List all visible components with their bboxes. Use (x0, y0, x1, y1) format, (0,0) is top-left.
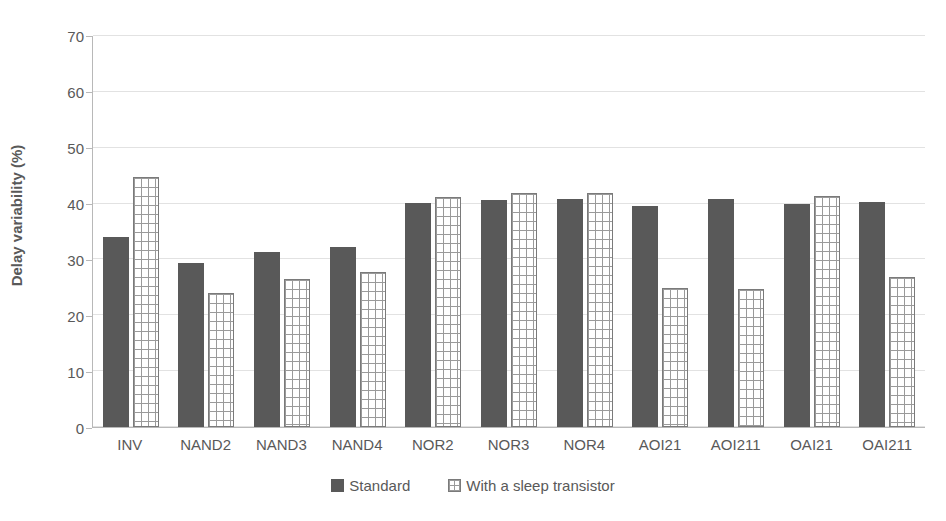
bar-group (471, 36, 547, 427)
plot-area (92, 36, 925, 428)
bar[interactable] (632, 206, 658, 427)
bar-chart: Delay variability (%) 010203040506070 IN… (0, 0, 946, 521)
y-axis-tick-label: 70 (40, 29, 84, 44)
bar-group (547, 36, 623, 427)
bar[interactable] (435, 197, 461, 427)
bar-group (93, 36, 169, 427)
x-axis-tick-label: NOR2 (395, 432, 471, 458)
bar[interactable] (814, 196, 840, 427)
x-axis-tick-label: NOR4 (546, 432, 622, 458)
x-axis-tick-label: AOI21 (622, 432, 698, 458)
bar[interactable] (889, 277, 915, 427)
bar[interactable] (708, 199, 734, 427)
legend-label: Standard (349, 477, 410, 494)
x-axis-tick-label: INV (92, 432, 168, 458)
y-axis-title-text: Delay variability (%) (9, 144, 26, 286)
bar[interactable] (133, 177, 159, 427)
bar-group (622, 36, 698, 427)
bar[interactable] (208, 293, 234, 427)
x-axis-tick-label: OAI21 (774, 432, 850, 458)
x-axis-tick-label: NOR3 (471, 432, 547, 458)
y-axis-tick-labels: 010203040506070 (36, 36, 84, 428)
bar-group (698, 36, 774, 427)
bar-group (169, 36, 245, 427)
bar[interactable] (557, 199, 583, 427)
bar[interactable] (784, 204, 810, 427)
y-axis-tick-label: 10 (40, 365, 84, 380)
y-axis-tick-label: 30 (40, 253, 84, 268)
chart-legend: StandardWith a sleep transistor (0, 470, 946, 500)
x-axis-tick-label: NAND4 (319, 432, 395, 458)
y-axis-tick-label: 60 (40, 85, 84, 100)
x-axis-tick-label: NAND3 (243, 432, 319, 458)
x-axis-tick-label: NAND2 (168, 432, 244, 458)
bar-group (396, 36, 472, 427)
bar-group (320, 36, 396, 427)
y-axis-tick-label: 40 (40, 197, 84, 212)
legend-item[interactable]: Standard (331, 477, 410, 494)
bar[interactable] (587, 193, 613, 427)
bar[interactable] (178, 263, 204, 427)
bar[interactable] (481, 200, 507, 427)
y-axis-title: Delay variability (%) (0, 0, 34, 430)
legend-item[interactable]: With a sleep transistor (448, 477, 614, 494)
legend-swatch-icon (448, 479, 461, 492)
x-axis-tick-label: AOI211 (698, 432, 774, 458)
bar-groups (93, 36, 925, 427)
bar[interactable] (662, 288, 688, 427)
legend-label: With a sleep transistor (466, 477, 614, 494)
bar-group (849, 36, 925, 427)
bar[interactable] (738, 289, 764, 427)
bar[interactable] (511, 193, 537, 427)
x-axis-tick-label: OAI211 (849, 432, 925, 458)
x-axis-tick-labels: INVNAND2NAND3NAND4NOR2NOR3NOR4AOI21AOI21… (92, 432, 925, 458)
y-axis-tick-label: 0 (40, 421, 84, 436)
bar[interactable] (103, 237, 129, 427)
y-axis-tick-label: 50 (40, 141, 84, 156)
bar[interactable] (859, 202, 885, 427)
legend-swatch-icon (331, 479, 344, 492)
y-axis-tick-label: 20 (40, 309, 84, 324)
y-axis-tick-mark (86, 428, 92, 429)
bar[interactable] (254, 252, 280, 427)
bar[interactable] (360, 272, 386, 427)
bar[interactable] (284, 279, 310, 427)
bar-group (244, 36, 320, 427)
bar[interactable] (330, 247, 356, 427)
bar[interactable] (405, 203, 431, 427)
bar-group (774, 36, 850, 427)
